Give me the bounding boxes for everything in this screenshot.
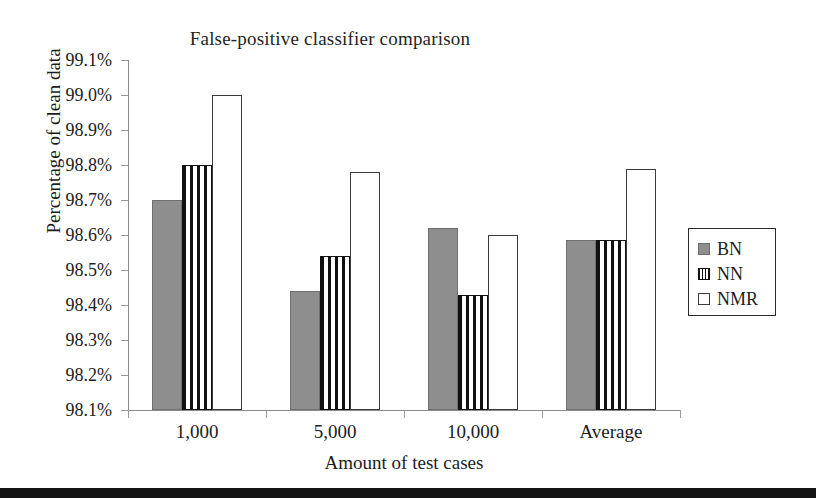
plot-area: 99.1%99.0%98.9%98.8%98.7%98.6%98.5%98.4%… [128, 60, 680, 410]
y-axis-tick-label: 98.5% [66, 260, 113, 281]
legend-item-bn[interactable]: BN [698, 236, 775, 261]
x-axis-tick [542, 410, 543, 418]
legend-swatch-icon [698, 243, 710, 255]
x-axis-category-label: 5,000 [314, 421, 357, 443]
x-axis-category-label: 10,000 [447, 421, 499, 443]
y-axis-tick-label: 98.6% [66, 225, 113, 246]
legend-label: NMR [717, 290, 758, 308]
bar-group [128, 60, 680, 410]
bar-bn-3 [566, 240, 596, 410]
legend-label: NN [717, 265, 743, 283]
y-axis-tick [121, 375, 128, 376]
legend-item-nmr[interactable]: NMR [698, 286, 775, 311]
bar-nn-3 [596, 240, 626, 410]
x-axis-category-label: Average [580, 421, 643, 443]
y-axis-tick [121, 200, 128, 201]
y-axis-tick [121, 305, 128, 306]
y-axis-tick [121, 235, 128, 236]
x-axis-category-label: 1,000 [176, 421, 219, 443]
legend-item-nn[interactable]: NN [698, 261, 775, 286]
y-axis-tick-label: 98.1% [66, 400, 113, 421]
y-axis-tick [121, 130, 128, 131]
bar-nmr-3 [626, 169, 656, 411]
y-axis-tick [121, 410, 128, 411]
y-axis-tick-label: 98.4% [66, 295, 113, 316]
y-axis-tick-label: 98.7% [66, 190, 113, 211]
y-axis-tick [121, 340, 128, 341]
y-axis-tick [121, 60, 128, 61]
x-axis-tick [266, 410, 267, 418]
bottom-band [0, 488, 816, 498]
x-axis-tick [128, 410, 129, 418]
y-axis-tick-label: 98.3% [66, 330, 113, 351]
y-axis-title: Percentage of clean data [43, 1, 65, 281]
y-axis-tick [121, 165, 128, 166]
legend-swatch-icon [698, 293, 710, 305]
legend-label: BN [717, 240, 742, 258]
y-axis-tick-label: 98.9% [66, 120, 113, 141]
y-axis-tick-label: 99.1% [66, 50, 113, 71]
y-axis-tick [121, 270, 128, 271]
y-axis-tick [121, 95, 128, 96]
x-axis-title: Amount of test cases [128, 452, 680, 474]
x-axis-tick [680, 410, 681, 418]
chart-figure: False-positive classifier comparison Per… [0, 0, 816, 498]
y-axis-tick-label: 98.8% [66, 155, 113, 176]
y-axis-tick-label: 99.0% [66, 85, 113, 106]
x-axis-tick [404, 410, 405, 418]
y-axis-tick-label: 98.2% [66, 365, 113, 386]
legend-swatch-icon [698, 268, 710, 280]
chart-title: False-positive classifier comparison [0, 28, 660, 50]
chart-legend: BNNNNMR [688, 228, 776, 316]
